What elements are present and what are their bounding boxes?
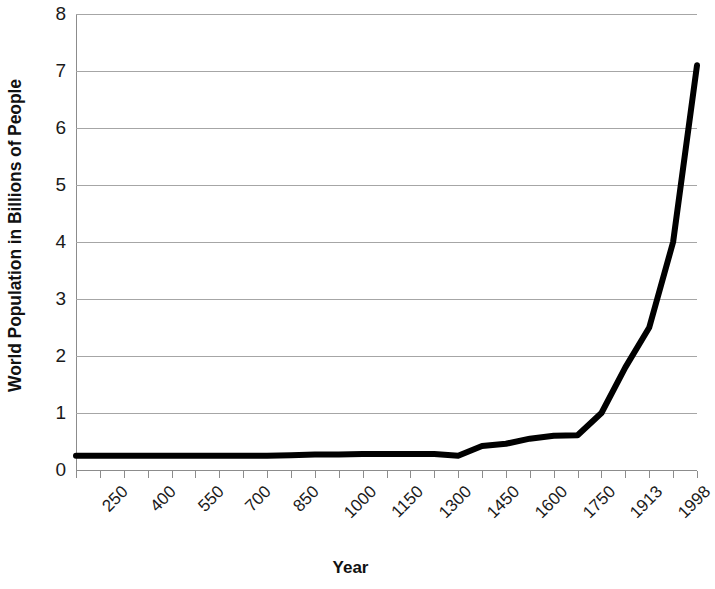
y-tick-label: 7 (30, 61, 66, 80)
x-tick-label: 1450 (483, 482, 524, 523)
y-tick-label: 0 (30, 460, 66, 479)
y-tick-label: 6 (30, 118, 66, 137)
x-tick-label: 400 (146, 482, 180, 516)
x-tick (554, 471, 555, 478)
x-tick (625, 471, 626, 478)
x-tick (578, 471, 579, 478)
x-tick (387, 471, 388, 478)
y-tick-label: 3 (30, 289, 66, 308)
x-tick-label: 1998 (674, 482, 715, 523)
x-tick-label: 1750 (579, 482, 620, 523)
y-tick-label: 4 (30, 232, 66, 251)
y-tick-label: 8 (30, 4, 66, 23)
x-tick (673, 471, 674, 478)
x-tick-label: 1150 (387, 482, 427, 522)
x-tick (172, 471, 173, 478)
y-tick-label: 5 (30, 175, 66, 194)
y-tick-label: 1 (30, 403, 66, 422)
x-tick (219, 471, 220, 478)
x-axis-title: Year (0, 558, 701, 578)
x-tick (76, 471, 77, 478)
x-tick-label: 550 (194, 482, 228, 516)
x-tick-label: 1000 (340, 482, 381, 523)
x-tick (363, 471, 364, 478)
x-tick-label: 700 (242, 482, 276, 516)
x-tick-label: 250 (98, 482, 132, 516)
data-line (76, 14, 697, 470)
x-tick (124, 471, 125, 478)
x-tick-label: 1600 (531, 482, 572, 523)
x-tick (506, 471, 507, 478)
x-tick-label: 1300 (435, 482, 476, 523)
x-tick (482, 471, 483, 478)
y-tick-label: 2 (30, 346, 66, 365)
x-tick (339, 471, 340, 478)
x-tick (100, 471, 101, 478)
x-tick (434, 471, 435, 478)
x-tick (315, 471, 316, 478)
x-tick (410, 471, 411, 478)
x-tick (530, 471, 531, 478)
x-tick (267, 471, 268, 478)
x-tick (601, 471, 602, 478)
x-tick (148, 471, 149, 478)
x-tick (697, 471, 698, 478)
data-polyline (76, 65, 697, 455)
y-axis-title-label: World Population in Billions of People (5, 79, 26, 392)
x-tick (291, 471, 292, 478)
x-tick (195, 471, 196, 478)
plot-area (76, 14, 697, 470)
y-axis-title: World Population in Billions of People (0, 0, 30, 470)
x-tick-label: 1913 (627, 482, 668, 523)
x-tick-label: 850 (289, 482, 323, 516)
x-tick (458, 471, 459, 478)
x-tick (649, 471, 650, 478)
x-tick (243, 471, 244, 478)
